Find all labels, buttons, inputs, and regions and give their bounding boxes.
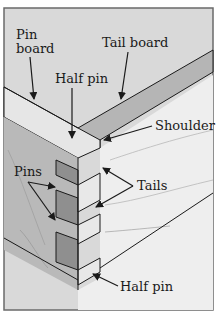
label-half-pin-top: Half pin	[55, 71, 109, 86]
dovetail-diagram: Pin board Tail board Half pin Shoulder P…	[0, 0, 217, 315]
label-half-pin-bottom: Half pin	[120, 279, 174, 294]
label-pin-board-1: Pin	[16, 27, 38, 42]
label-shoulder: Shoulder	[155, 118, 216, 133]
label-tail-board: Tail board	[102, 35, 168, 50]
label-pins: Pins	[14, 164, 42, 179]
label-tails: Tails	[137, 178, 167, 193]
label-pin-board-2: board	[16, 41, 54, 56]
